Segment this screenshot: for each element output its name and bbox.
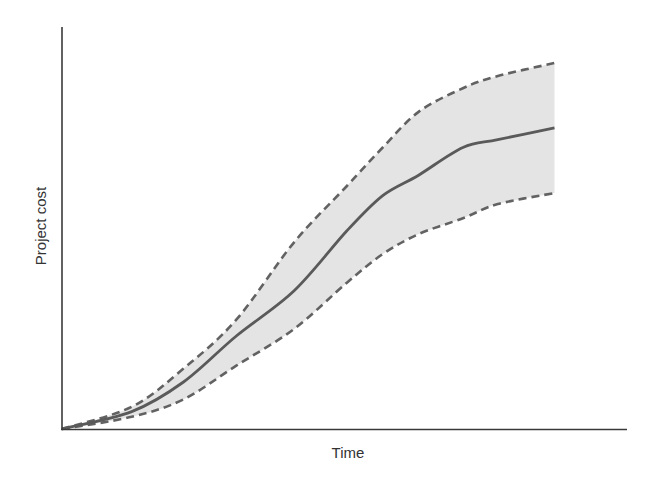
x-axis-label: Time (332, 444, 365, 461)
uncertainty-band (62, 63, 555, 429)
project-cost-chart: Time Project cost (0, 0, 655, 490)
y-axis-label: Project cost (32, 186, 49, 265)
